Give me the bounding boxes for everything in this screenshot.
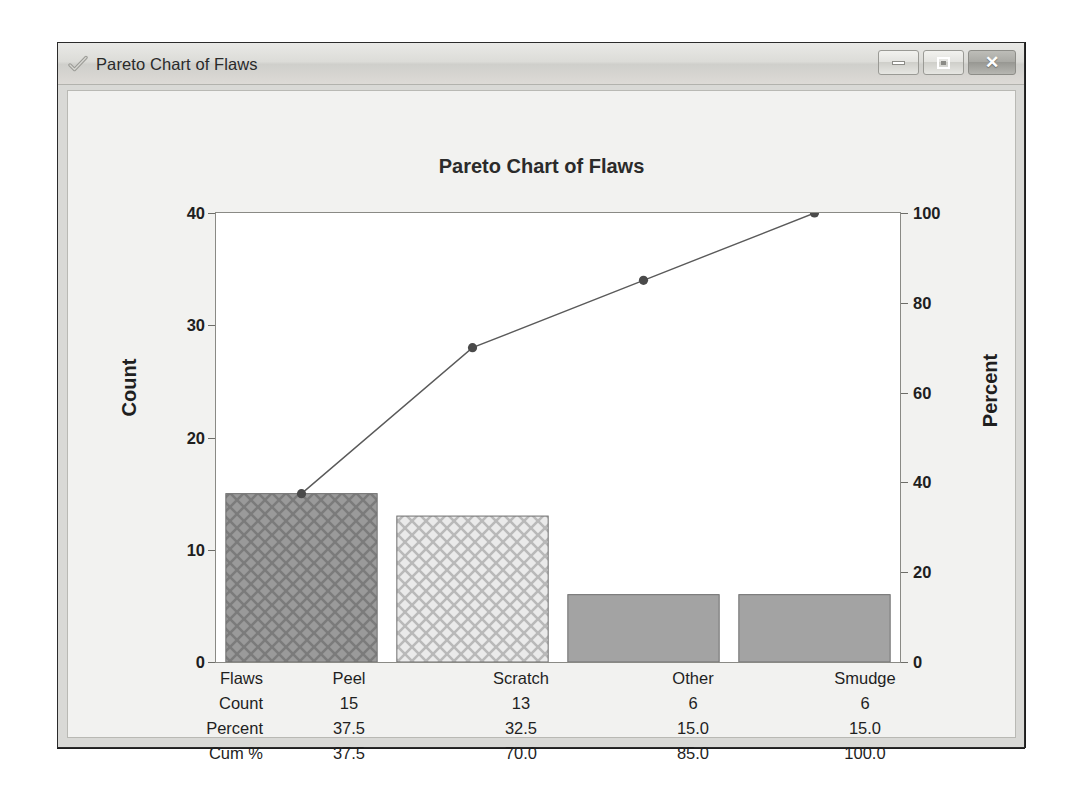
checkmark-icon [68, 55, 88, 73]
summary-table: FlawsPeelScratchOtherSmudgeCount151366Pe… [68, 666, 1017, 766]
table-cell: 32.5 [435, 719, 607, 738]
table-row-label: Count [68, 694, 263, 713]
table-cell: 6 [779, 694, 951, 713]
table-cell: 85.0 [607, 744, 779, 763]
cumulative-marker-smudge [810, 213, 819, 218]
y-tick-mark-right [901, 393, 908, 394]
y-axis-title-percent: Percent [979, 354, 1002, 427]
table-cell: 37.5 [263, 719, 435, 738]
table-cell: Smudge [779, 669, 951, 688]
table-cell: 13 [435, 694, 607, 713]
y-tick-mark-right [901, 303, 908, 304]
chart-client-area: Pareto Chart of Flaws Count Percent 0102… [67, 90, 1016, 738]
y-tick-label-left: 30 [153, 316, 205, 335]
bars-group [226, 494, 890, 662]
y-tick-mark-right [901, 213, 908, 214]
bar-peel [226, 494, 377, 662]
y-tick-label-left: 10 [153, 540, 205, 559]
chart-window: Pareto Chart of Flaws ✕ Pareto Chart of … [57, 42, 1025, 748]
y-tick-mark-right [901, 482, 908, 483]
window-title: Pareto Chart of Flaws [96, 55, 258, 74]
close-button[interactable]: ✕ [968, 50, 1016, 75]
table-cell: 70.0 [435, 744, 607, 763]
table-cell: Scratch [435, 669, 607, 688]
minimize-button[interactable] [878, 50, 919, 75]
table-cell: 37.5 [263, 744, 435, 763]
table-cell: 15.0 [779, 719, 951, 738]
cumulative-percent-line [302, 213, 815, 494]
y-tick-mark-right [901, 662, 908, 663]
y-tick-mark-left [208, 662, 215, 663]
bar-smudge [739, 595, 890, 662]
table-row: Count151366 [68, 691, 1017, 716]
table-cell: 6 [607, 694, 779, 713]
y-tick-mark-right [901, 572, 908, 573]
plot-area [215, 212, 901, 663]
y-tick-mark-left [208, 438, 215, 439]
cumulative-marker-peel [297, 489, 306, 498]
y-axis-title-count: Count [118, 359, 141, 417]
table-cell: 15.0 [607, 719, 779, 738]
y-tick-label-right: 20 [913, 563, 965, 582]
y-tick-label-right: 100 [913, 204, 965, 223]
table-cell: Peel [263, 669, 435, 688]
y-tick-label-right: 60 [913, 383, 965, 402]
y-tick-label-right: 40 [913, 473, 965, 492]
pareto-plot-svg [216, 213, 900, 662]
cumulative-line-group [297, 213, 819, 498]
close-icon: ✕ [985, 54, 999, 71]
table-row-label: Cum % [68, 744, 263, 763]
y-tick-label-left: 20 [153, 428, 205, 447]
table-cell: 100.0 [779, 744, 951, 763]
cumulative-marker-scratch [468, 343, 477, 352]
y-tick-label-left: 40 [153, 204, 205, 223]
maximize-icon [937, 57, 950, 69]
minimize-icon [892, 61, 905, 65]
table-row-label: Percent [68, 719, 263, 738]
table-row: Percent37.532.515.015.0 [68, 716, 1017, 741]
table-cell: Other [607, 669, 779, 688]
window-controls: ✕ [878, 50, 1016, 75]
y-tick-mark-left [208, 550, 215, 551]
chart-title: Pareto Chart of Flaws [68, 155, 1015, 178]
maximize-button[interactable] [923, 50, 964, 75]
y-tick-mark-left [208, 213, 215, 214]
bar-other [568, 595, 719, 662]
y-tick-label-right: 80 [913, 293, 965, 312]
table-row-label: Flaws [68, 669, 263, 688]
bar-scratch [397, 516, 548, 662]
cumulative-marker-other [639, 276, 648, 285]
table-row: FlawsPeelScratchOtherSmudge [68, 666, 1017, 691]
window-titlebar[interactable]: Pareto Chart of Flaws ✕ [58, 43, 1024, 85]
table-cell: 15 [263, 694, 435, 713]
titlebar-left-group: Pareto Chart of Flaws [68, 43, 258, 85]
table-row: Cum %37.570.085.0100.0 [68, 741, 1017, 766]
y-tick-mark-left [208, 325, 215, 326]
